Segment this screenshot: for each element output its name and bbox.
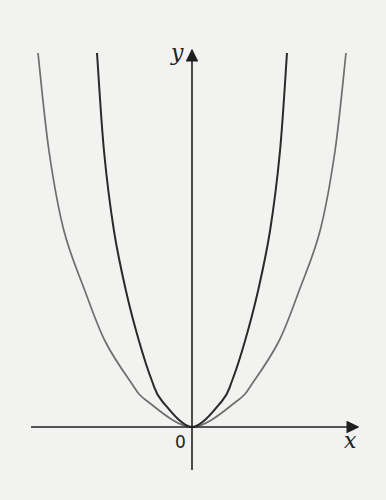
graph-figure: y x 0 xyxy=(0,0,386,500)
x-axis-label: x xyxy=(344,428,357,453)
y-axis-label: y xyxy=(170,40,184,65)
origin-label: 0 xyxy=(175,432,186,452)
